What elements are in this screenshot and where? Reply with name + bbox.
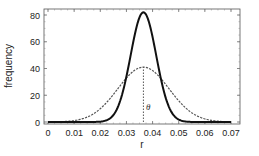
x-tick-label: 0.03 bbox=[118, 128, 136, 138]
y-tick-label: 80 bbox=[30, 11, 40, 21]
chart: 00.010.020.030.040.050.060.07 020406080 … bbox=[0, 0, 259, 156]
wide-distribution-curve bbox=[48, 67, 231, 122]
x-tick-label: 0.07 bbox=[222, 128, 240, 138]
axis-ticks bbox=[44, 9, 240, 124]
y-tick-label: 40 bbox=[30, 64, 40, 74]
x-tick-label: 0.02 bbox=[92, 128, 110, 138]
y-tick-label: 0 bbox=[35, 118, 40, 128]
x-tick-label: 0 bbox=[45, 128, 50, 138]
theta-annotation: θ bbox=[146, 102, 151, 112]
y-tick-labels: 020406080 bbox=[30, 11, 40, 128]
narrow-distribution-curve bbox=[48, 12, 231, 122]
x-tick-labels: 00.010.020.030.040.050.060.07 bbox=[45, 128, 239, 138]
x-tick-label: 0.06 bbox=[196, 128, 214, 138]
y-tick-label: 60 bbox=[30, 37, 40, 47]
y-tick-label: 20 bbox=[30, 91, 40, 101]
x-tick-label: 0.05 bbox=[170, 128, 188, 138]
plot-frame bbox=[44, 9, 240, 124]
plot-area bbox=[44, 9, 240, 124]
x-axis-label: r bbox=[140, 139, 144, 150]
y-axis-label: frequency bbox=[3, 44, 14, 88]
x-tick-label: 0.01 bbox=[65, 128, 83, 138]
x-tick-label: 0.04 bbox=[144, 128, 162, 138]
